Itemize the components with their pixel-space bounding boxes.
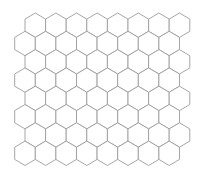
hexagon-grid: [0, 0, 200, 173]
